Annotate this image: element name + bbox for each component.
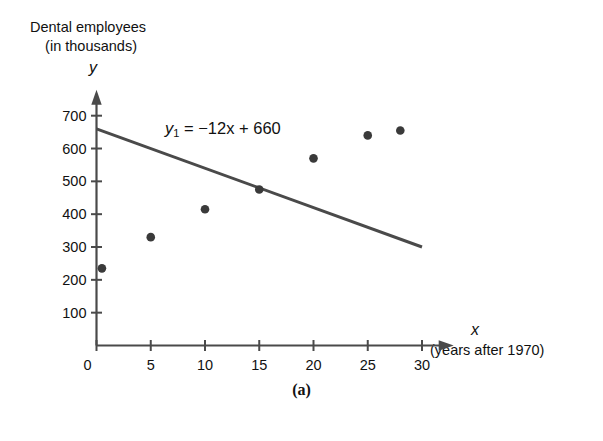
x-axis-tick-label: 10 (197, 357, 213, 373)
plot-area (0, 0, 603, 441)
y-axis-arrowhead (91, 90, 101, 105)
data-point (98, 264, 107, 273)
x-axis-tick-label: 30 (414, 357, 430, 373)
figure-caption: (a) (0, 381, 603, 399)
x-axis-tick-label: 0 (83, 357, 91, 373)
x-axis-tick-label: 15 (251, 357, 267, 373)
y-axis-tick-label: 100 (39, 305, 87, 321)
x-axis-tick-label: 5 (147, 357, 155, 373)
data-point (146, 233, 155, 242)
x-axis-arrowhead (439, 340, 454, 350)
data-point (255, 185, 264, 194)
figure-container: Dental employees (in thousands) y x (yea… (0, 0, 603, 441)
y-axis-tick-label: 400 (39, 206, 87, 222)
y-axis-tick-label: 200 (39, 272, 87, 288)
y-axis-tick-label: 300 (39, 239, 87, 255)
data-point (396, 126, 405, 135)
y-axis-tick-label: 600 (39, 141, 87, 157)
y-axis-tick-label: 700 (39, 108, 87, 124)
y-axis-tick-label: 500 (39, 173, 87, 189)
data-point (309, 154, 318, 163)
data-point (201, 205, 210, 214)
data-point (363, 131, 372, 140)
x-axis-tick-label: 25 (360, 357, 376, 373)
x-axis-tick-label: 20 (305, 357, 321, 373)
